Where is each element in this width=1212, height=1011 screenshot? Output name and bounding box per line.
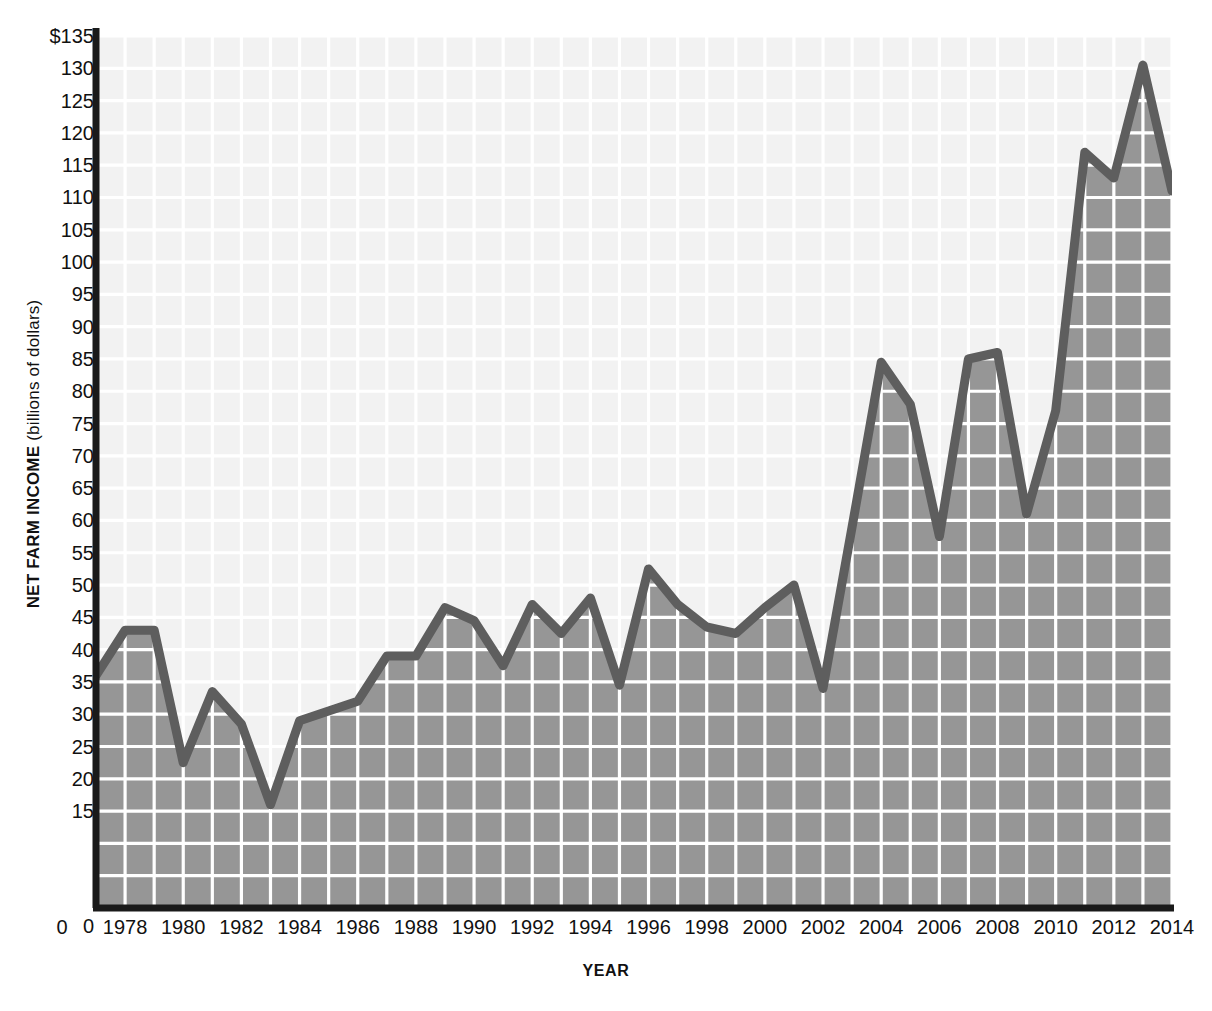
x-axis-tick-label: 1994: [568, 916, 613, 939]
x-axis-tick-label: 2006: [917, 916, 962, 939]
x-axis-tick-label: 2002: [801, 916, 846, 939]
x-axis-tick-label: 1996: [626, 916, 671, 939]
x-axis-tick-label: 1992: [510, 916, 555, 939]
x-axis-tick-label: 1978: [103, 916, 148, 939]
x-axis-tick-label: 1998: [684, 916, 729, 939]
x-axis-tick-label: 0: [56, 916, 67, 939]
x-axis-tick-label: 2008: [975, 916, 1020, 939]
x-axis-tick-label: 1984: [277, 916, 322, 939]
x-axis-tick-label: 2000: [743, 916, 788, 939]
x-axis-tick-label: 2004: [859, 916, 904, 939]
x-axis-tick-label: 2014: [1150, 916, 1195, 939]
x-axis-tick-label: 2012: [1092, 916, 1137, 939]
x-axis-tick-label: 1982: [219, 916, 264, 939]
x-axis-tick-label: 1988: [394, 916, 439, 939]
x-axis-tick-label: 1980: [161, 916, 206, 939]
x-axis-tick-label: 2010: [1033, 916, 1078, 939]
x-axis-tick-labels: 0197819801982198419861988199019921994199…: [0, 0, 1212, 1011]
x-axis-tick-label: 1990: [452, 916, 497, 939]
x-axis-title: YEAR: [0, 962, 1212, 980]
net-farm-income-chart: NET FARM INCOME (billions of dollars) $1…: [0, 0, 1212, 1011]
x-axis-tick-label: 1986: [335, 916, 380, 939]
